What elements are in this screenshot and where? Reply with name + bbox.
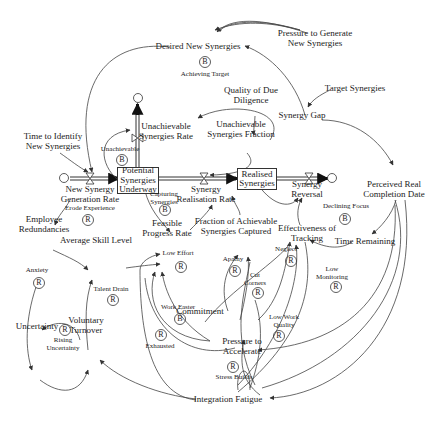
loop-apathy-icon: R: [228, 264, 242, 278]
stress-builds-label: Stress Builds: [216, 374, 253, 382]
stock-realised-synergies: Realised Synergies: [237, 168, 277, 190]
loop-anxiety-icon: R: [32, 276, 46, 290]
loop-low-effort-icon: R: [174, 260, 188, 274]
synergy-realisation-rate: Synergy Realisation Rate: [176, 185, 235, 204]
loop-rising-uncertainty-icon: R: [58, 323, 72, 337]
loop-cut-corners-icon: R: [251, 286, 265, 300]
neglect-label: Neglect: [275, 246, 297, 254]
pressure-to-accelerate: Pressure to Accelerate: [222, 337, 262, 356]
cloud-icon: [60, 94, 337, 183]
achieving-target-label: Achieving Target: [181, 71, 229, 79]
unachievable-synergies-fraction: Unachievable Synergies Fraction: [207, 120, 275, 139]
loop-capturing-synergies-icon: B: [158, 203, 172, 217]
flow-pipe-inflow: [70, 177, 118, 180]
low-work-quality-label: Low Work Quality: [269, 314, 299, 329]
time-to-identify-new-synergies: Time to Identify New Synergies: [24, 132, 83, 151]
low-effort-label: Low Effort: [162, 250, 193, 258]
anxiety-label: Anxiety: [26, 267, 49, 275]
pressure-to-generate-new-synergies: Pressure to Generate New Synergies: [278, 29, 352, 48]
loop-exhausted-icon: R: [154, 328, 168, 342]
causal-loop-diagram: [0, 0, 439, 426]
loop-neglect-icon: R: [284, 254, 298, 268]
uncertainty: Uncertainty: [16, 322, 58, 332]
loop-unachievable-icon: B: [115, 153, 129, 167]
loop-achieving-target-icon: B: [198, 55, 212, 69]
desired-new-synergies: Desired New Synergies: [156, 42, 241, 52]
loop-declining-focus-icon: B: [338, 212, 352, 226]
quality-of-due-diligence: Quality of Due Diligence: [224, 86, 278, 105]
time-remaining: Time Remaining: [335, 237, 395, 247]
fraction-of-achievable-synergies-captured: Fraction of Achievable Synergies Capture…: [195, 217, 277, 236]
loop-low-monitoring-icon: R: [329, 280, 343, 294]
integration-fatigue: Integration Fatigue: [194, 395, 263, 405]
low-monitoring-label: Low Monitoring: [316, 266, 348, 281]
erode-experience-label: Erode Experience: [65, 205, 115, 213]
unachievable-synergies-rate: Unachievable Synergies Rate: [139, 122, 193, 141]
loop-low-work-quality-icon: R: [272, 329, 286, 343]
new-synergy-generation-rate: New Synergy Generation Rate: [61, 185, 120, 204]
employee-redundancies: Employee Redundancies: [19, 215, 69, 234]
loop-talent-drain-icon: R: [106, 293, 120, 307]
loop-erode-experience-icon: R: [81, 213, 95, 227]
rising-uncertainty-label: Rising Uncertainty: [46, 337, 79, 352]
average-skill-level: Average Skill Level: [60, 236, 132, 246]
feasible-progress-rate: Feasible Progress Rate: [142, 219, 192, 238]
cut-corners-label: Cut Corners: [244, 272, 266, 287]
perceived-real-completion-date: Perceived Real Completion Date: [363, 180, 425, 199]
loop-work-faster-icon: B: [173, 312, 187, 326]
loop-stress-builds-icon: R: [226, 360, 240, 374]
flow-pipe-realisation: [159, 177, 236, 180]
effectiveness-of-tracking: Effectiveness of Tracking: [278, 224, 336, 243]
synergy-reversal: Synergy Reversal: [291, 180, 323, 199]
declining-focus-label: Declining Focus: [323, 203, 369, 211]
exhausted-label: Exhausted: [145, 343, 174, 351]
voluntary-turnover: Voluntary Turnover: [68, 316, 103, 335]
apathy-label: Apathy: [223, 256, 244, 264]
target-synergies: Target Synergies: [325, 84, 385, 94]
synergy-gap: Synergy Gap: [278, 111, 325, 121]
